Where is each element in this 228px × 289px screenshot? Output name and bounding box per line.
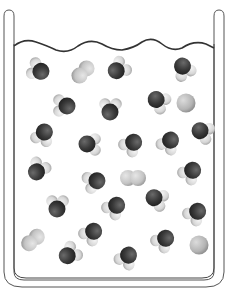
water-molecule — [103, 53, 135, 85]
water-molecule — [143, 86, 174, 117]
atom-icon — [177, 94, 196, 113]
water-molecule — [46, 195, 69, 217]
water-molecule — [148, 224, 180, 256]
water-molecule — [168, 53, 199, 84]
liquid-surface — [14, 39, 214, 51]
beaker-diagram — [0, 0, 228, 289]
water-molecule — [53, 94, 75, 117]
oxygen-atom-icon — [102, 104, 119, 121]
water-molecule — [175, 156, 207, 188]
atom-icon — [190, 236, 209, 255]
oxygen-atom-icon — [82, 219, 106, 243]
oxygen-atom-icon — [154, 226, 178, 250]
water-molecule — [99, 98, 122, 120]
water-molecule — [54, 238, 86, 270]
single-atom — [190, 236, 209, 255]
water-molecule — [79, 133, 101, 156]
oxygen-atom-icon — [79, 136, 96, 153]
water-molecule — [153, 127, 184, 158]
single-atom — [177, 94, 196, 113]
water-molecule — [80, 167, 109, 196]
oxygen-atom-icon — [59, 98, 76, 115]
oxygen-atom-icon — [181, 158, 205, 182]
diatomic-molecule — [68, 57, 98, 87]
water-molecule — [116, 128, 148, 160]
atom-icon — [130, 170, 146, 186]
water-molecule — [111, 242, 142, 273]
water-molecule — [188, 118, 217, 147]
water-molecule — [142, 185, 171, 214]
water-molecule — [180, 197, 212, 229]
oxygen-atom-icon — [49, 201, 66, 218]
water-molecule — [76, 217, 108, 249]
oxygen-atom-icon — [186, 199, 210, 223]
diatomic-molecule — [120, 170, 146, 186]
oxygen-atom-icon — [105, 193, 129, 217]
water-molecule — [99, 191, 131, 223]
diatomic-molecule — [18, 226, 48, 255]
oxygen-atom-icon — [122, 130, 146, 154]
water-molecule — [23, 155, 54, 186]
water-molecule — [24, 56, 53, 85]
molecule-layer — [18, 53, 217, 272]
water-molecule — [29, 120, 58, 149]
